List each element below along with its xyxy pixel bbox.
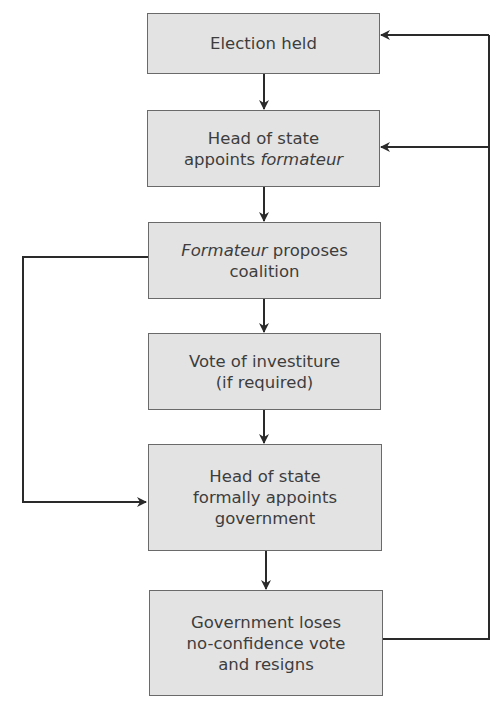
- node-appoint-formateur: Head of stateappoints formateur: [147, 110, 380, 187]
- node-label-line: coalition: [181, 261, 348, 282]
- node-label: Head of stateappoints formateur: [184, 128, 343, 170]
- italic-term: formateur: [260, 150, 343, 169]
- label-text: coalition: [229, 262, 299, 281]
- node-label-line: no-confidence vote: [187, 633, 346, 654]
- node-election-held: Election held: [147, 13, 380, 74]
- node-vote-of-investiture: Vote of investiture(if required): [148, 333, 381, 410]
- node-label: Vote of investiture(if required): [189, 351, 340, 393]
- node-label: Government losesno-confidence voteand re…: [187, 612, 346, 675]
- label-text: Government loses: [191, 613, 341, 632]
- node-formateur-proposes-coalition: Formateur proposescoalition: [148, 222, 381, 299]
- label-text: government: [215, 509, 316, 528]
- node-label-line: Head of state: [184, 128, 343, 149]
- node-label-line: Government loses: [187, 612, 346, 633]
- node-label: Election held: [210, 33, 317, 54]
- label-text: Head of state: [209, 467, 320, 486]
- node-label-line: Election held: [210, 33, 317, 54]
- italic-term: Formateur: [181, 241, 267, 260]
- node-label-line: government: [193, 508, 337, 529]
- node-label: Head of stateformally appointsgovernment: [193, 466, 337, 529]
- node-government-loses-no-confidence: Government losesno-confidence voteand re…: [149, 590, 383, 696]
- label-text: proposes: [268, 241, 348, 260]
- loop-line-noconfidence-right: [383, 35, 489, 639]
- node-label-line: formally appoints: [193, 487, 337, 508]
- node-label-line: appoints formateur: [184, 149, 343, 170]
- node-label-line: (if required): [189, 372, 340, 393]
- node-label-line: Head of state: [193, 466, 337, 487]
- label-text: and resigns: [218, 655, 314, 674]
- coalition-formation-flowchart: Election held Head of stateappoints form…: [0, 0, 500, 701]
- node-label-line: Vote of investiture: [189, 351, 340, 372]
- node-label-line: Formateur proposes: [181, 240, 348, 261]
- node-label-line: and resigns: [187, 654, 346, 675]
- label-text: (if required): [216, 373, 314, 392]
- label-text: Election held: [210, 34, 317, 53]
- label-text: formally appoints: [193, 488, 337, 507]
- label-text: no-confidence vote: [187, 634, 346, 653]
- label-text: Head of state: [208, 129, 319, 148]
- label-text: Vote of investiture: [189, 352, 340, 371]
- node-label: Formateur proposescoalition: [181, 240, 348, 282]
- node-formally-appoints-government: Head of stateformally appointsgovernment: [148, 444, 382, 551]
- arrow-coalition-bypass-to-appoint: [23, 257, 148, 502]
- label-text: appoints: [184, 150, 261, 169]
